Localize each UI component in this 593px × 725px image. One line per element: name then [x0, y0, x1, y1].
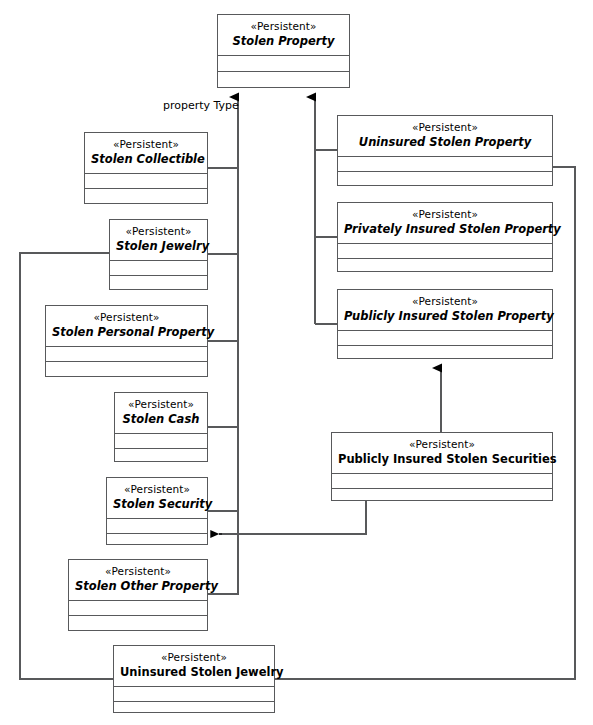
class-stolen-other-property[interactable]: «Persistent» Stolen Other Property	[68, 559, 208, 631]
operations-compartment	[107, 533, 207, 548]
stereotype-label: «Persistent»	[344, 295, 546, 308]
operations-compartment	[218, 71, 349, 87]
class-header: «Persistent» Stolen Personal Property	[46, 306, 207, 346]
class-header: «Persistent» Stolen Property	[218, 15, 349, 55]
stereotype-label: «Persistent»	[116, 225, 201, 238]
class-header: «Persistent» Publicly Insured Stolen Pro…	[338, 290, 552, 330]
class-header: «Persistent» Uninsured Stolen Property	[338, 116, 552, 156]
attributes-compartment	[332, 473, 552, 488]
class-stolen-collectible[interactable]: «Persistent» Stolen Collectible	[84, 132, 208, 204]
uml-class-diagram: «Persistent» Stolen Property «Persistent…	[0, 0, 593, 725]
attributes-compartment	[46, 346, 207, 361]
class-name: Stolen Personal Property	[52, 325, 201, 339]
class-name: Uninsured Stolen Property	[344, 135, 546, 149]
stereotype-label: «Persistent»	[344, 121, 546, 134]
class-name: Stolen Security	[113, 497, 201, 511]
attributes-compartment	[114, 686, 274, 701]
class-header: «Persistent» Stolen Other Property	[69, 560, 207, 600]
class-stolen-property[interactable]: «Persistent» Stolen Property	[217, 14, 350, 88]
attributes-compartment	[338, 243, 552, 258]
stereotype-label: «Persistent»	[52, 311, 201, 324]
class-name: Stolen Jewelry	[116, 239, 201, 253]
class-name: Stolen Collectible	[91, 152, 201, 166]
operations-compartment	[115, 448, 207, 463]
stereotype-label: «Persistent»	[121, 398, 201, 411]
attributes-compartment	[338, 156, 552, 171]
operations-compartment	[338, 345, 552, 360]
stereotype-label: «Persistent»	[344, 208, 546, 221]
class-header: «Persistent» Uninsured Stolen Jewelry	[114, 646, 274, 686]
operations-compartment	[69, 615, 207, 630]
class-stolen-cash[interactable]: «Persistent» Stolen Cash	[114, 392, 208, 462]
class-publicly-insured-stolen-securities[interactable]: «Persistent» Publicly Insured Stolen Sec…	[331, 432, 553, 501]
attributes-compartment	[107, 518, 207, 533]
class-header: «Persistent» Stolen Cash	[115, 393, 207, 433]
stereotype-label: «Persistent»	[113, 483, 201, 496]
class-name: Privately Insured Stolen Property	[344, 222, 546, 236]
edge-label-property-type: property Type	[163, 99, 239, 112]
class-uninsured-stolen-jewelry[interactable]: «Persistent» Uninsured Stolen Jewelry	[113, 645, 275, 713]
operations-compartment	[85, 188, 207, 203]
attributes-compartment	[69, 600, 207, 615]
class-name: Publicly Insured Stolen Property	[344, 309, 546, 323]
class-name: Publicly Insured Stolen Securities	[338, 452, 546, 466]
class-header: «Persistent» Stolen Collectible	[85, 133, 207, 173]
class-header: «Persistent» Stolen Security	[107, 478, 207, 518]
operations-compartment	[338, 258, 552, 273]
operations-compartment	[46, 361, 207, 376]
class-name: Stolen Property	[224, 34, 343, 48]
attributes-compartment	[110, 260, 207, 275]
attributes-compartment	[115, 433, 207, 448]
class-uninsured-stolen-property[interactable]: «Persistent» Uninsured Stolen Property	[337, 115, 553, 186]
operations-compartment	[332, 488, 552, 503]
class-stolen-security[interactable]: «Persistent» Stolen Security	[106, 477, 208, 545]
class-header: «Persistent» Stolen Jewelry	[110, 220, 207, 260]
class-name: Stolen Cash	[121, 412, 201, 426]
class-header: «Persistent» Privately Insured Stolen Pr…	[338, 203, 552, 243]
stereotype-label: «Persistent»	[120, 651, 268, 664]
class-name: Uninsured Stolen Jewelry	[120, 665, 268, 679]
operations-compartment	[338, 171, 552, 186]
class-publicly-insured-stolen-property[interactable]: «Persistent» Publicly Insured Stolen Pro…	[337, 289, 553, 359]
class-name: Stolen Other Property	[75, 579, 201, 593]
attributes-compartment	[338, 330, 552, 345]
class-stolen-jewelry[interactable]: «Persistent» Stolen Jewelry	[109, 219, 208, 290]
class-stolen-personal-property[interactable]: «Persistent» Stolen Personal Property	[45, 305, 208, 377]
stereotype-label: «Persistent»	[338, 438, 546, 451]
class-header: «Persistent» Publicly Insured Stolen Sec…	[332, 433, 552, 473]
class-privately-insured-stolen-property[interactable]: «Persistent» Privately Insured Stolen Pr…	[337, 202, 553, 272]
attributes-compartment	[85, 173, 207, 188]
stereotype-label: «Persistent»	[75, 565, 201, 578]
operations-compartment	[114, 701, 274, 716]
stereotype-label: «Persistent»	[91, 138, 201, 151]
attributes-compartment	[218, 55, 349, 71]
stereotype-label: «Persistent»	[224, 20, 343, 33]
operations-compartment	[110, 275, 207, 290]
